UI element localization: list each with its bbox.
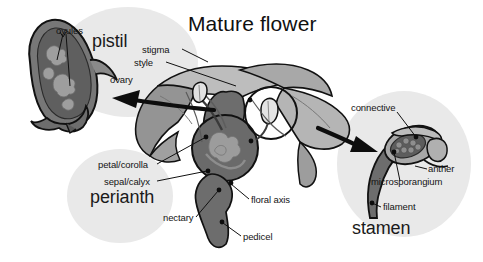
label-anther: anther bbox=[428, 164, 454, 174]
dot-micro bbox=[392, 150, 397, 155]
flower-illustration bbox=[0, 0, 483, 262]
leader-floral-axis bbox=[231, 184, 249, 199]
label-sepal-calyx: sepal/calyx bbox=[104, 177, 150, 187]
label-style: style bbox=[134, 58, 153, 68]
label-pedicel: pedicel bbox=[243, 232, 272, 242]
petal-right-lower bbox=[298, 142, 317, 187]
label-petal-corolla: petal/corolla bbox=[98, 160, 148, 170]
dot-filament bbox=[370, 201, 375, 206]
dot-stigma-axis bbox=[249, 139, 254, 144]
label-nectary: nectary bbox=[163, 213, 193, 223]
label-filament: filament bbox=[383, 202, 415, 212]
label-floral-axis: floral axis bbox=[251, 195, 290, 205]
diagram-canvas: Mature flower pistil perianth stamen ovu… bbox=[0, 0, 483, 262]
petal-right-wing bbox=[276, 88, 350, 149]
group-label-pistil: pistil bbox=[92, 32, 127, 50]
anther-in-flower bbox=[261, 98, 278, 123]
anther-second-theca bbox=[427, 138, 447, 161]
ovule-side bbox=[43, 68, 54, 80]
label-connective: connective bbox=[351, 103, 395, 113]
group-label-stamen: stamen bbox=[352, 219, 410, 237]
dot-pedicel bbox=[220, 220, 225, 225]
page-title: Mature flower bbox=[188, 13, 317, 34]
dot-sepal bbox=[206, 169, 211, 174]
dot-floral-axis bbox=[229, 181, 234, 186]
group-label-perianth: perianth bbox=[90, 188, 154, 206]
dot-nectary bbox=[217, 188, 222, 193]
label-ovules: ovules bbox=[56, 26, 83, 36]
label-stigma: stigma bbox=[142, 45, 169, 55]
dot-style bbox=[248, 98, 253, 103]
label-ovary: ovary bbox=[110, 75, 133, 85]
dot-connective bbox=[414, 135, 419, 140]
dot-petal bbox=[204, 135, 209, 140]
label-microsporangium: microsporangium bbox=[371, 177, 442, 187]
